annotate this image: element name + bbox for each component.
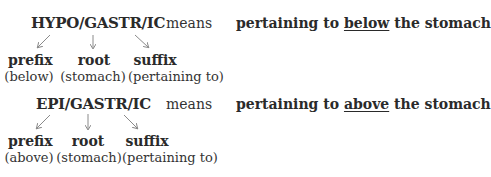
arrow-icon [37, 35, 148, 129]
